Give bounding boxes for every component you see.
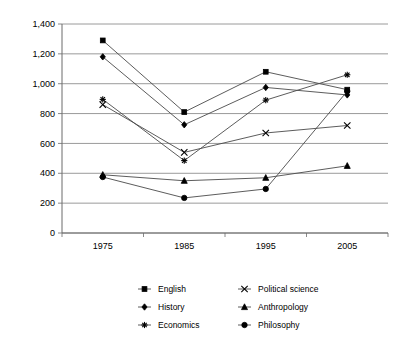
x-axis-tick-label: 2005 xyxy=(337,241,357,251)
legend-label: Philosophy xyxy=(258,320,300,330)
circle-marker xyxy=(100,174,105,179)
circle-marker xyxy=(345,88,350,93)
y-axis-tick-label: 600 xyxy=(40,139,55,149)
series-political-science xyxy=(100,101,351,155)
star-marker xyxy=(100,96,106,102)
y-axis-tick-label: 0 xyxy=(50,228,55,238)
circle-marker xyxy=(263,186,268,191)
diamond-marker xyxy=(100,54,105,60)
legend-item-anthropology[interactable]: Anthropology xyxy=(238,302,309,312)
axes xyxy=(62,24,388,233)
legend-item-philosophy[interactable]: Philosophy xyxy=(238,320,300,330)
x-axis-tick-label: 1995 xyxy=(256,241,276,251)
series-history xyxy=(100,54,350,128)
series-philosophy xyxy=(100,88,350,200)
x-axis-tick-label: 1975 xyxy=(93,241,113,251)
line-chart: 02004006008001,0001,2001,400 19751985199… xyxy=(0,0,404,347)
legend-label: Anthropology xyxy=(258,302,309,312)
series-line xyxy=(103,105,348,153)
legend-item-english[interactable]: English xyxy=(138,284,186,294)
legend-label: English xyxy=(158,284,186,294)
legend-item-political-science[interactable]: Political science xyxy=(238,284,319,294)
series-english xyxy=(100,38,349,114)
chart-canvas: 02004006008001,0001,2001,400 19751985199… xyxy=(0,0,404,347)
series-line xyxy=(103,91,348,198)
star-marker xyxy=(181,157,187,163)
diamond-marker xyxy=(182,122,187,128)
y-axis-tick-label: 1,000 xyxy=(32,79,55,89)
star-marker xyxy=(141,322,147,328)
y-axis-tick-label: 1,400 xyxy=(32,19,55,29)
star-marker xyxy=(263,97,269,103)
legend-label: Economics xyxy=(158,320,200,330)
y-axis-tick-label: 1,200 xyxy=(32,49,55,59)
triangle-marker xyxy=(344,163,350,169)
legend-item-history[interactable]: History xyxy=(138,302,185,312)
y-axis-tick-label: 200 xyxy=(40,198,55,208)
data-series-group xyxy=(100,38,351,201)
legend-item-economics[interactable]: Economics xyxy=(138,320,200,330)
square-marker xyxy=(100,38,105,43)
square-marker xyxy=(142,287,147,292)
circle-marker xyxy=(182,195,187,200)
circle-marker xyxy=(242,322,247,327)
legend-label: History xyxy=(158,302,185,312)
square-marker xyxy=(263,69,268,74)
square-marker xyxy=(182,110,187,115)
x-axis-tick-marks xyxy=(62,233,388,237)
x-axis-tick-labels: 1975198519952005 xyxy=(93,241,358,251)
diamond-marker xyxy=(142,304,147,310)
y-axis-tick-label: 800 xyxy=(40,109,55,119)
star-marker xyxy=(344,72,350,78)
cross-marker xyxy=(181,149,187,155)
x-axis-tick-label: 1985 xyxy=(174,241,194,251)
gridlines xyxy=(62,24,388,233)
series-line xyxy=(103,57,348,125)
y-axis-tick-label: 400 xyxy=(40,168,55,178)
legend-label: Political science xyxy=(258,284,319,294)
chart-legend: EnglishPolitical scienceHistoryAnthropol… xyxy=(138,284,319,330)
y-axis-tick-labels: 02004006008001,0001,2001,400 xyxy=(32,19,62,238)
series-line xyxy=(103,40,348,112)
diamond-marker xyxy=(263,84,268,90)
